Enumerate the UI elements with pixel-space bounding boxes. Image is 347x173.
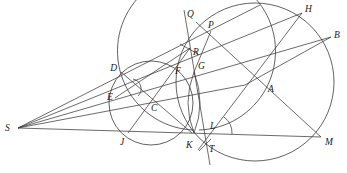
label-h: H [304, 4, 313, 14]
line-s-h [18, 13, 302, 128]
label-e: E [106, 92, 113, 102]
line-s-p [18, 5, 260, 128]
lens-arc-right [194, 72, 200, 133]
label-j: J [120, 137, 125, 147]
label-m: M [324, 137, 334, 147]
label-g: G [198, 61, 205, 71]
geometry-figure: S D E C J K F G R Q P H B A L T M [0, 0, 347, 173]
label-c: C [151, 103, 158, 113]
line-a-b [245, 37, 331, 85]
point-labels: S D E C J K F G R Q P H B A L T M [5, 4, 340, 154]
line-s-a [18, 37, 331, 128]
angle-marks [133, 79, 232, 134]
angle-arc-l [224, 117, 232, 134]
label-k: K [185, 140, 193, 150]
label-f: F [174, 66, 181, 76]
label-q: Q [187, 9, 194, 19]
label-a: A [267, 84, 274, 94]
line-s-m [18, 128, 321, 137]
label-t: T [209, 144, 215, 154]
label-l: L [209, 121, 215, 131]
label-s: S [5, 123, 10, 133]
label-b: B [334, 30, 340, 40]
construction-lines [115, 10, 331, 165]
label-p: P [207, 20, 214, 30]
line-q-m [196, 22, 321, 137]
lens-curves [188, 72, 200, 133]
label-r: R [192, 47, 199, 57]
large-circle-full [176, 3, 334, 161]
label-d: D [109, 63, 117, 73]
